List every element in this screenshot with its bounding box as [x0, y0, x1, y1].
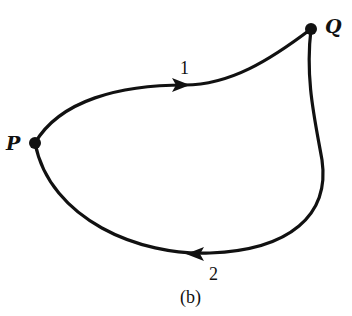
figure-caption: (b): [180, 287, 201, 308]
path-2-curve: [35, 29, 323, 253]
path-2-label: 2: [209, 264, 218, 284]
path-1-label: 1: [180, 58, 189, 78]
point-p-dot: [29, 137, 41, 149]
path-1-curve: [35, 29, 311, 143]
closed-loop-diagram: P Q 1 2 (b): [0, 0, 352, 316]
point-p-label: P: [5, 132, 21, 154]
point-q-dot: [305, 23, 317, 35]
point-q-label: Q: [325, 15, 342, 37]
